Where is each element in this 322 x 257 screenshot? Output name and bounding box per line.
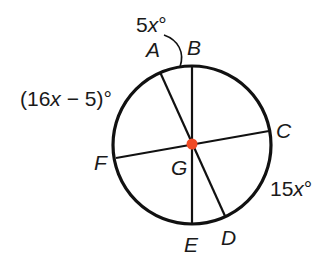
- point-label-e: E: [184, 233, 199, 256]
- point-label-b: B: [187, 36, 201, 59]
- arc-ab-pointer-icon: [164, 35, 182, 67]
- arc-af-measure: (16x − 5)°: [20, 87, 112, 110]
- circle-diagram: A B C D E F G 5x° (16x − 5)° 15x°: [0, 0, 322, 257]
- point-label-c: C: [276, 119, 292, 142]
- arc-ab-measure: 5x°: [136, 13, 167, 36]
- point-label-d: D: [221, 226, 236, 249]
- arc-cd-measure: 15x°: [270, 177, 312, 200]
- point-label-f: F: [94, 151, 108, 174]
- point-label-g: G: [171, 156, 187, 179]
- point-label-a: A: [144, 38, 160, 61]
- center-point-g: [187, 139, 198, 150]
